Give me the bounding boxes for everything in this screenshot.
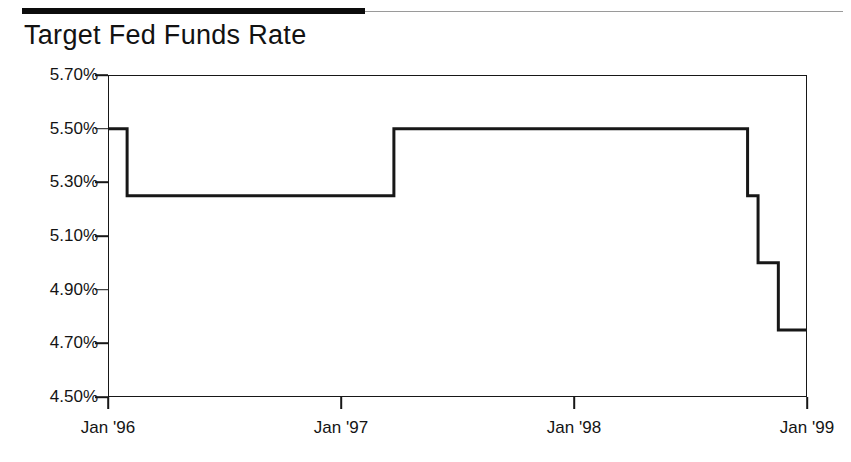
x-tick-mark <box>107 397 109 409</box>
x-tick-mark <box>340 397 342 409</box>
y-tick-label: 5.50% <box>14 119 98 139</box>
y-tick-label: 4.90% <box>14 280 98 300</box>
y-tick-label: 5.10% <box>14 226 98 246</box>
x-tick-label: Jan '99 <box>780 418 834 438</box>
x-tick-label: Jan '97 <box>314 418 368 438</box>
chart-figure: 5.70%5.50%5.30%5.10%4.90%4.70%4.50% Jan … <box>0 0 851 462</box>
x-tick-mark <box>573 397 575 409</box>
y-tick-label: 5.70% <box>14 65 98 85</box>
x-tick-label: Jan '98 <box>547 418 601 438</box>
x-tick-mark <box>806 397 808 409</box>
y-axis-labels: 5.70%5.50%5.30%5.10%4.90%4.70%4.50% <box>10 0 98 462</box>
series-line-target-fed-funds-rate <box>108 129 807 330</box>
y-tick-label: 4.70% <box>14 333 98 353</box>
y-tick-label: 4.50% <box>14 387 98 407</box>
plot-series-svg <box>108 75 807 397</box>
y-tick-label: 5.30% <box>14 172 98 192</box>
